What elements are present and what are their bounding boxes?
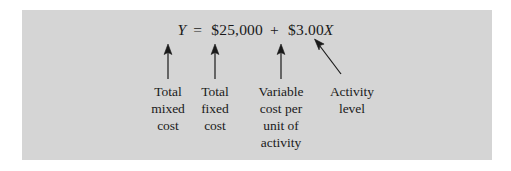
equation-independent-variable: X bbox=[324, 21, 334, 38]
label-line: cost per bbox=[243, 100, 319, 117]
label-total-fixed-cost: Total fixed cost bbox=[185, 83, 245, 134]
label-line: unit of bbox=[243, 117, 319, 134]
label-line: fixed bbox=[185, 100, 245, 117]
label-line: Activity bbox=[319, 83, 385, 100]
cost-formula-figure: Y=$25,000+$3.00X Total mixed cost bbox=[0, 0, 511, 171]
label-activity-level: Activity level bbox=[319, 83, 385, 117]
label-line: level bbox=[319, 100, 385, 117]
equation-plus-sign: + bbox=[270, 21, 279, 38]
equation-fixed-cost: $25,000 bbox=[211, 21, 263, 38]
label-line: cost bbox=[185, 117, 245, 134]
label-line: activity bbox=[243, 134, 319, 151]
equation-dependent-variable: Y bbox=[177, 21, 186, 38]
label-line: Variable bbox=[243, 83, 319, 100]
equation-variable-rate: $3.00 bbox=[288, 21, 324, 38]
cost-equation: Y=$25,000+$3.00X bbox=[0, 21, 511, 39]
label-variable-cost-per-unit: Variable cost per unit of activity bbox=[243, 83, 319, 151]
equation-equals-sign: = bbox=[193, 21, 202, 38]
label-line: Total bbox=[185, 83, 245, 100]
